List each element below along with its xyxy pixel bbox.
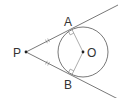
label-a: A — [64, 15, 72, 29]
label-o: O — [87, 46, 96, 60]
label-p: P — [13, 46, 21, 60]
point-p — [25, 51, 28, 54]
label-b: B — [64, 78, 72, 92]
point-o — [82, 51, 85, 54]
tangent-circle-diagram: P O A B — [0, 0, 118, 98]
